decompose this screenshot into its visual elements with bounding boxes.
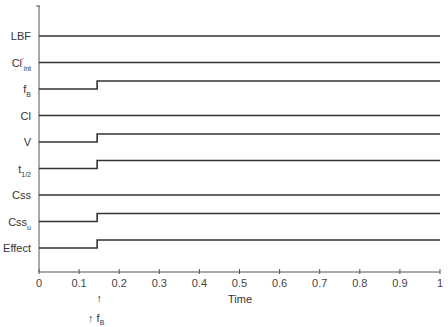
x-axis-label: Time (228, 293, 252, 305)
x-tick-label: 0.6 (272, 277, 287, 289)
series-label: fB (23, 83, 31, 98)
series-label: LBF (11, 30, 31, 42)
annotations: ↑↑ fB (88, 292, 105, 326)
series-label: V (24, 136, 32, 148)
x-tick-label: 0.2 (112, 277, 127, 289)
series-line-cssu (39, 214, 440, 222)
series-line-fb (39, 81, 440, 89)
series-labels: LBFCl'intfBClVt1/2CssCssuEffect (3, 30, 32, 254)
series-label: t1/2 (18, 163, 31, 178)
series-line-v (39, 134, 440, 142)
x-tick-label: 1 (437, 277, 443, 289)
series-label: Effect (3, 242, 31, 254)
x-tick-label: 0.5 (232, 277, 247, 289)
x-tick-label: 0.7 (312, 277, 327, 289)
step-chart: 00.10.20.30.40.50.60.70.80.91 LBFCl'intf… (0, 0, 448, 327)
x-tick-label: 0.4 (192, 277, 207, 289)
fb-annotation: ↑ fB (88, 312, 105, 326)
x-tick-label: 0.1 (71, 277, 86, 289)
fb-change-arrow: ↑ (96, 292, 102, 304)
series-lines (39, 36, 440, 248)
series-label: Cl (21, 110, 31, 122)
x-tick-label: 0.9 (392, 277, 407, 289)
x-tick-label: 0.8 (352, 277, 367, 289)
x-tick-label: 0 (36, 277, 42, 289)
series-label: Cssu (8, 216, 31, 231)
series-line-t1-2 (39, 161, 440, 169)
series-label: Css (12, 189, 31, 201)
x-tick-label: 0.3 (152, 277, 167, 289)
series-label: Cl'int (12, 56, 31, 72)
series-line-effect (39, 240, 440, 248)
